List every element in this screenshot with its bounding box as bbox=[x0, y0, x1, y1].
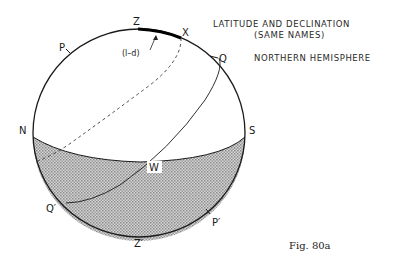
label-south: S bbox=[249, 125, 255, 136]
label-arc-note: (l–d) bbox=[122, 49, 140, 58]
pole-tick bbox=[66, 49, 70, 53]
arrow-head-icon bbox=[153, 35, 158, 40]
label-north: N bbox=[19, 125, 26, 136]
zenith-distance-arc bbox=[138, 29, 181, 38]
label-equator-bottom: Q′ bbox=[46, 203, 57, 214]
figure-title-sub: (SAME NAMES) bbox=[254, 30, 325, 40]
figure-title: LATITUDE AND DECLINATION bbox=[213, 19, 350, 29]
label-nadir: Z′ bbox=[134, 238, 144, 249]
label-equator-top: Q bbox=[219, 53, 227, 64]
declination-circle-dashed bbox=[35, 38, 181, 162]
celestial-sphere-diagram: Z X (l–d) P Q N S W Q′ Z′ P′ LATITUDE AN… bbox=[0, 0, 394, 262]
label-zenith: Z bbox=[133, 16, 140, 27]
label-pole-below: P′ bbox=[212, 217, 221, 228]
figure-caption: Fig. 80a bbox=[289, 240, 331, 251]
label-pole: P bbox=[59, 42, 65, 53]
label-west: W bbox=[149, 162, 159, 173]
figure-subtitle: NORTHERN HEMISPHERE bbox=[254, 53, 371, 63]
label-star: X bbox=[182, 27, 189, 38]
